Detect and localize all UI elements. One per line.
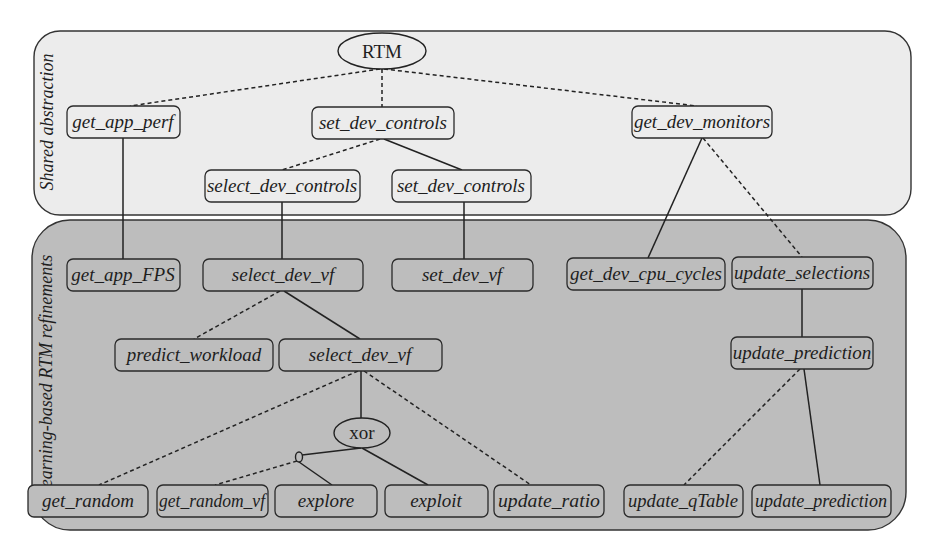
node-explore[interactable]: explore [275, 485, 377, 517]
small-operator-icon [296, 452, 303, 462]
panel-label-shared-abstraction: Shared abstraction [37, 54, 57, 191]
node-label: get_app_FPS [71, 264, 175, 285]
node-update-ratio[interactable]: update_ratio [494, 485, 604, 517]
node-select-dev-controls[interactable]: select_dev_controls [205, 170, 360, 202]
node-predict-workload[interactable]: predict_workload [115, 339, 273, 371]
node-get-dev-cpu-cycles[interactable]: get_dev_cpu_cycles [567, 258, 725, 290]
node-label: set_dev_vf [422, 264, 505, 285]
node-update-prediction-2[interactable]: update_prediction [752, 485, 891, 517]
panel-label-learning-refinements: Learning-based RTM refinements [36, 255, 56, 498]
operator-xor-label: xor [349, 422, 375, 443]
node-get-random-vf[interactable]: get_random_vf [157, 485, 268, 517]
node-label: get_app_perf [72, 111, 176, 132]
node-set-dev-controls-2[interactable]: set_dev_controls [392, 170, 531, 202]
diagram-canvas: Shared abstraction Learning-based RTM re… [0, 0, 941, 557]
node-label: set_dev_controls [397, 175, 525, 196]
node-label: update_prediction [733, 342, 872, 363]
node-label: get_random [42, 490, 134, 511]
node-select-dev-vf-2[interactable]: select_dev_vf [279, 339, 442, 371]
node-set-dev-vf[interactable]: set_dev_vf [392, 259, 533, 291]
operator-rtm[interactable]: RTM [338, 33, 426, 69]
node-update-selections[interactable]: update_selections [732, 257, 873, 289]
node-update-qtable[interactable]: update_qTable [624, 485, 743, 517]
node-label: exploit [410, 490, 462, 511]
node-label: update_prediction [755, 490, 887, 511]
operator-rtm-label: RTM [362, 41, 402, 62]
node-label: update_ratio [498, 490, 600, 511]
node-label: select_dev_controls [207, 175, 357, 196]
operator-xor[interactable]: xor [334, 418, 390, 448]
node-get-dev-monitors[interactable]: get_dev_monitors [632, 106, 772, 138]
node-get-app-fps[interactable]: get_app_FPS [67, 259, 180, 291]
node-label: get_dev_monitors [634, 111, 770, 132]
node-get-app-perf[interactable]: get_app_perf [67, 106, 180, 138]
node-exploit[interactable]: exploit [385, 485, 488, 517]
node-label: get_dev_cpu_cycles [570, 263, 722, 284]
node-label: select_dev_vf [309, 344, 414, 365]
node-select-dev-vf[interactable]: select_dev_vf [203, 259, 363, 291]
node-label: get_random_vf [159, 490, 268, 511]
node-label: set_dev_controls [319, 112, 447, 133]
node-label: explore [298, 490, 354, 511]
node-label: select_dev_vf [232, 264, 337, 285]
node-get-random[interactable]: get_random [28, 485, 148, 517]
node-label: update_selections [734, 262, 870, 283]
node-update-prediction[interactable]: update_prediction [731, 337, 873, 369]
node-label: predict_workload [125, 344, 262, 365]
node-set-dev-controls[interactable]: set_dev_controls [312, 107, 454, 139]
node-label: update_qTable [628, 490, 738, 511]
